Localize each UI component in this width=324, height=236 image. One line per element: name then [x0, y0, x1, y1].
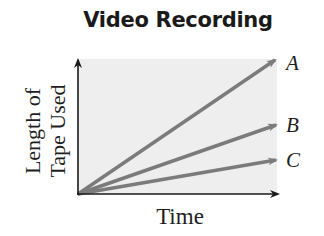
- x-axis-label: Time: [156, 204, 204, 229]
- y-axis-label-line2: Tape Used: [45, 84, 70, 177]
- series-a-label: A: [284, 51, 299, 75]
- series-b-label: B: [286, 113, 299, 137]
- chart-canvas: A B C Time Length of Tape Used: [0, 0, 324, 236]
- series-c-label: C: [286, 148, 301, 172]
- y-axis-label-line1: Length of: [20, 87, 45, 174]
- y-axis-label: Length of Tape Used: [20, 84, 70, 177]
